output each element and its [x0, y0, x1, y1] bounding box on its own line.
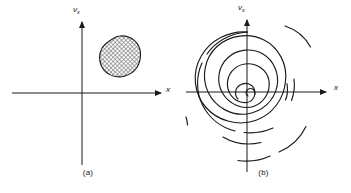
spiral-fragments [186, 26, 311, 161]
panel-b: vx x (b) [176, 0, 351, 193]
panel-a: vx x (a) [0, 0, 176, 193]
panel-a-canvas [0, 0, 176, 193]
fragment-bottom [238, 156, 270, 161]
phase-space-blob [100, 36, 141, 77]
axis-label-vx-a: vx [73, 6, 80, 14]
caption-a: (a) [0, 168, 176, 177]
panel-b-canvas [176, 0, 351, 193]
fragment-left-tick [186, 117, 188, 125]
spiral-filament [195, 32, 286, 144]
fragment-right-1 [292, 79, 295, 101]
fragment-upper-right [285, 26, 311, 47]
fragment-lower-right [279, 127, 306, 153]
axis-label-vx-b: vx [238, 4, 245, 12]
axis-label-x-a: x [166, 86, 170, 94]
figure-root: vx x (a) [0, 0, 351, 193]
caption-b: (b) [176, 168, 351, 177]
axis-label-x-b: x [334, 84, 338, 92]
